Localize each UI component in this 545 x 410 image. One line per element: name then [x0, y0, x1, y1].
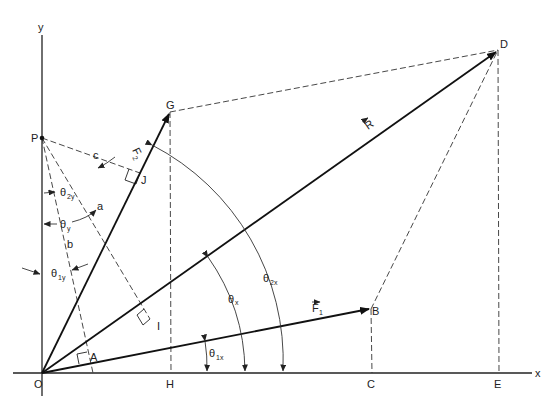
point-d-label: D: [500, 38, 508, 50]
vector-f1: [42, 309, 369, 373]
svg-text:θ: θ: [60, 186, 66, 198]
svg-text:x: x: [235, 299, 239, 306]
point-a-label: A: [90, 351, 98, 363]
svg-text:θ: θ: [60, 218, 66, 230]
segment-b-label: b: [67, 238, 73, 250]
svg-text:2y: 2y: [67, 193, 75, 201]
arc-theta-1x: [205, 341, 207, 371]
svg-text:2: 2: [131, 155, 139, 162]
projection-de: [498, 50, 499, 373]
perpendicular-pj: [42, 138, 140, 173]
segment-c-label: c: [93, 149, 99, 161]
point-g-label: G: [166, 99, 175, 111]
point-j-label: J: [141, 174, 147, 186]
points: O P G D B H C E J I A: [31, 38, 508, 390]
svg-text:θ: θ: [263, 272, 269, 284]
svg-text:y: y: [67, 225, 71, 233]
point-p-dot: [40, 136, 45, 141]
right-angle-marks: [77, 169, 150, 364]
theta-y-label: θ y: [60, 218, 71, 233]
parallelogram-edge-gd: [170, 50, 498, 112]
parallelogram-edge-bd: [371, 50, 498, 309]
svg-text:2x: 2x: [270, 279, 278, 286]
arc-theta-1y-left: [22, 268, 40, 274]
vector-f2-label: F 2: [128, 146, 145, 162]
arc-theta-2x: [152, 145, 283, 371]
vector-f2: [42, 114, 169, 373]
right-angle-i: [137, 309, 150, 325]
arc-theta-2y: [44, 192, 55, 193]
perpendicular-pi: [42, 138, 150, 319]
point-i-label: I: [157, 320, 160, 332]
point-p-label: P: [31, 132, 38, 144]
arc-theta-y-right: [72, 210, 96, 222]
theta-1y-label: θ 1y: [51, 267, 66, 282]
vector-r: [42, 52, 496, 373]
point-c-label: C: [367, 378, 375, 390]
svg-text:θ: θ: [209, 347, 215, 359]
svg-text:1y: 1y: [58, 274, 66, 282]
svg-text:R: R: [362, 117, 375, 131]
svg-text:1: 1: [319, 309, 323, 316]
point-o-label: O: [34, 378, 43, 390]
angle-arcs: [22, 145, 283, 371]
arc-theta-1y-right: [72, 264, 88, 270]
projection-bc: [371, 309, 372, 373]
theta-1x-label: θ 1x: [209, 347, 224, 361]
vector-r-label: R: [362, 117, 375, 131]
projection-gh: [170, 112, 171, 373]
x-axis-label: x: [535, 367, 541, 379]
arc-theta-2y-right: [98, 157, 115, 168]
perpendicular-pa: [42, 138, 93, 373]
svg-text:θ: θ: [51, 267, 57, 279]
segment-a-label: a: [97, 200, 104, 212]
vector-f1-label: F 1: [312, 302, 323, 316]
vectors: [42, 52, 496, 373]
point-h-label: H: [166, 378, 174, 390]
y-axis-label: y: [38, 21, 44, 33]
svg-text:1x: 1x: [216, 354, 224, 361]
theta-x-label: θ x: [228, 293, 239, 306]
svg-text:F: F: [312, 302, 319, 314]
theta-2x-label: θ 2x: [263, 272, 278, 286]
svg-text:θ: θ: [228, 293, 234, 305]
right-angle-a: [77, 352, 87, 364]
theta-2y-label: θ 2y: [60, 186, 75, 201]
vector-diagram: x y O P G: [0, 0, 545, 410]
point-b-label: B: [372, 305, 379, 317]
point-e-label: E: [494, 378, 501, 390]
